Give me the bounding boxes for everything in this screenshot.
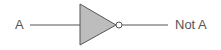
output-label: Not A <box>175 18 207 31</box>
not-gate-triangle <box>80 4 116 45</box>
inversion-bubble <box>116 22 122 28</box>
